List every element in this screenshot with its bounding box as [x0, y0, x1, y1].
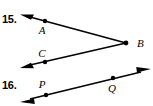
point-dot-A [43, 19, 47, 23]
point-label-B: B [137, 37, 144, 49]
point-dot-Q [111, 76, 115, 80]
figures-canvas: A C B P Q [0, 0, 153, 106]
point-label-A: A [38, 24, 46, 36]
ray-BA-arrowhead-icon [20, 15, 34, 20]
point-label-P: P [38, 78, 46, 90]
line-PQ-arrowhead-start-icon [20, 99, 35, 104]
figure-15-angle: A C B [20, 15, 144, 69]
point-dot-B [124, 41, 129, 46]
figure-16-line: P Q [20, 67, 151, 104]
point-dot-P [44, 93, 48, 97]
point-label-Q: Q [108, 82, 116, 94]
point-label-C: C [38, 47, 46, 59]
figure-page: 15. 16. A C B [0, 0, 153, 106]
ray-BC-arrowhead-icon [20, 63, 34, 68]
point-dot-C [43, 60, 47, 64]
line-PQ-arrowhead-end-icon [136, 67, 151, 72]
